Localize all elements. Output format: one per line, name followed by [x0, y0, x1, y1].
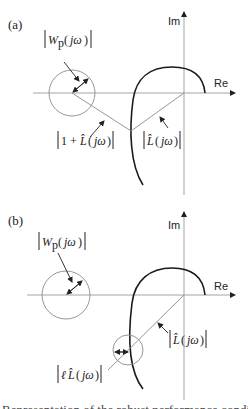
one-plus-l-label: 1 + L̂ ( jω ): [58, 131, 113, 149]
nyquist-diagram: (a) Im Re W p ( jω ) 1: [0, 0, 248, 409]
real-axis-label: Re: [214, 280, 228, 292]
nyquist-curve-a: [131, 67, 205, 185]
vector-one-plus-l: [72, 93, 131, 131]
svg-text:(: (: [181, 333, 185, 347]
svg-text:(: (: [64, 33, 68, 47]
imag-axis-label: Im: [168, 219, 180, 231]
svg-text:(: (: [58, 235, 62, 249]
vector-l: [131, 93, 184, 131]
caption-fragment: Representation of the robust performance…: [0, 402, 248, 409]
ell-l-label: ℓ L̂ ( jω ): [58, 365, 101, 383]
panel-b-label: (b): [8, 213, 23, 228]
svg-text:(: (: [88, 134, 92, 148]
svg-text:L̂: L̂: [146, 134, 154, 148]
svg-text:(: (: [155, 134, 159, 148]
panel-b: (b) Im Re W p ( jω ): [8, 212, 235, 400]
panel-a-label: (a): [8, 17, 22, 32]
svg-text:jω: jω: [159, 134, 173, 148]
svg-text:): ): [95, 368, 99, 382]
panel-a: (a) Im Re W p ( jω ) 1: [8, 12, 235, 195]
wp-leader-arrow: [58, 253, 72, 282]
svg-text:): ): [107, 134, 111, 148]
svg-text:(: (: [76, 368, 80, 382]
l-label-a: L̂ ( jω ): [144, 131, 180, 149]
svg-text:jω: jω: [92, 134, 106, 148]
svg-text:): ): [78, 235, 82, 249]
l-leader: [160, 117, 168, 128]
svg-text:jω: jω: [62, 235, 76, 249]
svg-text:jω: jω: [80, 368, 94, 382]
svg-text:L̂: L̂: [172, 333, 180, 347]
real-axis-label: Re: [214, 77, 228, 89]
wp-label: W p ( jω ): [45, 30, 91, 50]
wp-leader-arrow: [64, 62, 79, 81]
wp-label: W p ( jω ): [39, 232, 85, 252]
wp-radius-arrow-in: [67, 283, 80, 294]
svg-text:): ): [200, 333, 204, 347]
wp-radius-arrow-in: [73, 81, 86, 92]
l-label-b: L̂ ( jω ): [170, 330, 206, 348]
svg-text:ℓ: ℓ: [61, 368, 66, 382]
svg-text:1 +: 1 +: [61, 134, 77, 148]
nyquist-curve-b: [130, 268, 205, 389]
svg-text:): ): [84, 33, 88, 47]
imag-axis-label: Im: [168, 15, 180, 27]
svg-text:L̂: L̂: [67, 368, 75, 382]
l-leader: [158, 323, 168, 333]
svg-text:jω: jω: [185, 333, 199, 347]
svg-text:jω: jω: [68, 33, 82, 47]
svg-text:L̂: L̂: [79, 134, 87, 148]
svg-text:): ): [174, 134, 178, 148]
